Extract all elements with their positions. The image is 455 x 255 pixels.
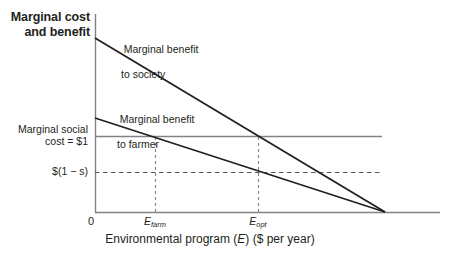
society-label-line2: to society <box>112 68 198 80</box>
e-farm-tick-label: Efarm <box>135 215 175 230</box>
origin-tick-label: 0 <box>88 215 94 228</box>
x-axis-title-post: ) ($ per year) <box>245 232 314 246</box>
e-farm-tick-base: E <box>144 215 151 227</box>
marginal-benefit-farmer-label: Marginal benefit to farmer <box>108 101 194 175</box>
e-farm-tick-subscript: farm <box>151 220 166 229</box>
economics-diagram: Marginal cost and benefit Marginal socia… <box>0 0 455 255</box>
subsidized-cost-label: $(1 − s) <box>0 165 88 177</box>
x-axis-title: Environmental program (E) ($ per year) <box>60 232 360 246</box>
marginal-social-cost-label: Marginal social cost = $1 <box>0 123 88 148</box>
marginal-benefit-society-label: Marginal benefit to society <box>112 31 198 105</box>
society-label-line1: Marginal benefit <box>124 43 199 55</box>
x-axis-title-pre: Environmental program ( <box>105 232 237 246</box>
y-axis-title: Marginal cost and benefit <box>8 10 90 40</box>
farmer-label-line1: Marginal benefit <box>120 113 195 125</box>
e-opt-tick-label: Eopt <box>238 215 278 230</box>
e-opt-tick-subscript: opt <box>256 220 266 229</box>
farmer-label-line2: to farmer <box>108 138 194 150</box>
